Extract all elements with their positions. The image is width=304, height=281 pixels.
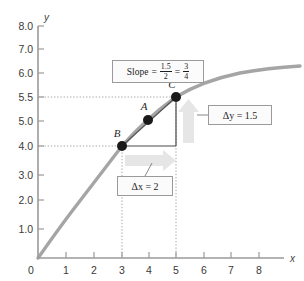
x-tick-label-5: 5 <box>173 264 179 276</box>
x-tick-label-7: 7 <box>228 264 234 276</box>
slope-fraction-2-numerator: 3 <box>183 63 189 73</box>
y-tick-label-5-0: 5.0 <box>18 115 33 127</box>
data-point-a <box>143 115 153 125</box>
delta-y-callout-box: Δy = 1.5 <box>208 105 272 125</box>
slope-fraction-1: 1.5 2 <box>160 63 172 81</box>
y-tick-label-3-0: 3.0 <box>18 169 33 181</box>
data-point-label-b: B <box>114 127 121 139</box>
x-tick-label-1: 1 <box>63 264 69 276</box>
data-point-b <box>117 141 127 151</box>
x-tick-label-2: 2 <box>91 264 97 276</box>
delta-x-callout-box: Δx = 2 <box>117 176 173 196</box>
y-tick-label-1-0: 1.0 <box>18 223 33 235</box>
y-axis-ticks <box>38 26 44 229</box>
y-tick-label-4-0: 4.0 <box>18 140 33 152</box>
delta-y-label: Δy = 1.5 <box>223 110 258 121</box>
data-point-c <box>171 92 181 102</box>
slope-of-secant-line-figure: 8.0 7.0 6.0 5.5 5.0 4.0 3.0 2.0 1.0 0 1 … <box>0 0 304 281</box>
slope-expression: Slope = 1.5 2 = 3 4 <box>127 63 189 81</box>
slope-callout-box: Slope = 1.5 2 = 3 4 <box>112 60 204 83</box>
x-axis-title: x <box>289 253 296 264</box>
x-tick-label-0: 0 <box>28 264 34 276</box>
slope-fraction-1-numerator: 1.5 <box>160 63 172 73</box>
data-point-label-a: A <box>140 100 148 112</box>
x-tick-label-3: 3 <box>119 264 125 276</box>
slope-fraction-2-denominator: 4 <box>183 72 189 81</box>
delta-x-block-arrow <box>125 150 176 171</box>
y-tick-label-7-0: 7.0 <box>18 43 33 55</box>
y-axis-title: y <box>43 12 50 23</box>
x-tick-labels: 0 1 2 3 4 5 6 7 8 <box>28 264 262 276</box>
slope-fraction-1-denominator: 2 <box>163 72 169 81</box>
plot-canvas: 8.0 7.0 6.0 5.5 5.0 4.0 3.0 2.0 1.0 0 1 … <box>0 0 304 281</box>
y-tick-label-6-0: 6.0 <box>18 67 33 79</box>
x-axis-ticks <box>66 252 259 258</box>
delta-y-block-arrow <box>178 99 199 143</box>
slope-equals-1: = <box>151 67 156 77</box>
x-tick-label-4: 4 <box>146 264 152 276</box>
slope-fraction-2: 3 4 <box>183 63 189 81</box>
y-tick-label-8-0: 8.0 <box>18 20 33 32</box>
delta-x-label: Δx = 2 <box>131 181 158 192</box>
x-tick-label-6: 6 <box>201 264 207 276</box>
y-tick-label-2-0: 2.0 <box>18 194 33 206</box>
slope-prefix-label: Slope <box>127 67 149 77</box>
slope-equals-2: = <box>175 67 180 77</box>
x-tick-label-8: 8 <box>256 264 262 276</box>
y-tick-label-5-5: 5.5 <box>18 91 33 103</box>
y-tick-labels: 8.0 7.0 6.0 5.5 5.0 4.0 3.0 2.0 1.0 <box>18 20 33 235</box>
